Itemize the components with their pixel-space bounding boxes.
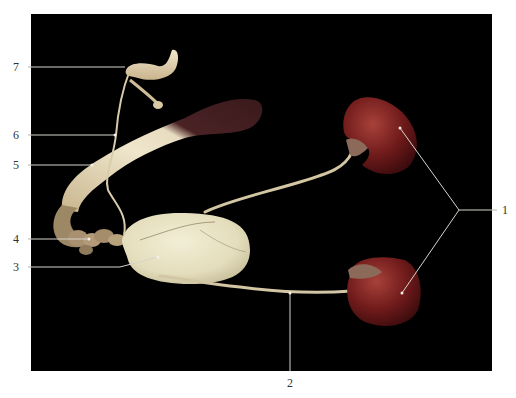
figure-canvas <box>0 0 516 398</box>
lower-kidney <box>347 257 421 326</box>
label-7: 7 <box>13 61 19 73</box>
label-1: 1 <box>502 204 508 216</box>
urinary-bladder <box>122 213 250 284</box>
label-3: 3 <box>13 261 19 273</box>
label-5: 5 <box>13 159 19 171</box>
label-4: 4 <box>13 233 19 245</box>
anatomical-figure: 1 2 3 4 5 6 7 <box>0 0 516 398</box>
label-2: 2 <box>287 377 293 389</box>
label-6: 6 <box>13 129 19 141</box>
